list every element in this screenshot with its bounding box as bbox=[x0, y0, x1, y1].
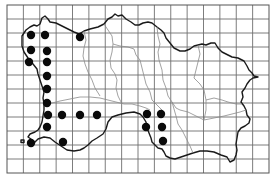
map-canvas bbox=[0, 0, 275, 182]
record-dot bbox=[27, 31, 35, 39]
record-dot bbox=[43, 123, 51, 131]
record-dot bbox=[43, 85, 51, 93]
parish-boundary bbox=[104, 24, 122, 104]
record-dot bbox=[25, 58, 33, 66]
record-dot bbox=[76, 111, 84, 119]
record-dot bbox=[43, 72, 51, 80]
record-dot bbox=[143, 110, 151, 118]
record-dot bbox=[43, 99, 51, 107]
record-dot bbox=[27, 46, 35, 54]
record-dot bbox=[41, 31, 49, 39]
record-dot bbox=[93, 111, 101, 119]
parish-boundary bbox=[83, 31, 100, 96]
record-dot bbox=[43, 47, 51, 55]
record-dot bbox=[159, 137, 167, 145]
record-dot bbox=[157, 110, 165, 118]
coastline bbox=[22, 14, 258, 162]
record-dot bbox=[58, 111, 66, 119]
parish-boundary bbox=[194, 45, 206, 120]
record-dot bbox=[76, 33, 84, 41]
islet bbox=[21, 140, 24, 143]
record-dot bbox=[43, 58, 51, 66]
record-dot bbox=[158, 123, 166, 131]
parish-boundary bbox=[44, 97, 150, 110]
record-dot bbox=[142, 123, 150, 131]
record-dot bbox=[59, 138, 67, 146]
record-dot bbox=[44, 111, 52, 119]
distribution-map bbox=[0, 0, 275, 182]
parish-boundary bbox=[157, 27, 180, 110]
record-dot bbox=[27, 139, 35, 147]
